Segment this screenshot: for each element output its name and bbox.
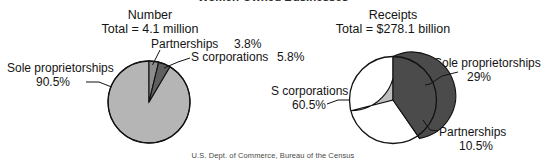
left-leader-s-corporations [164,58,190,68]
right-pie-chart [350,52,456,143]
right-leader-s-corporations [327,100,350,104]
source-note: U.S. Dept. of Commerce, Bureau of the Ce… [0,152,546,160]
left-pie-chart [108,61,190,143]
pies-svg [0,0,546,164]
right-slice-s-corporations [393,52,456,138]
left-leader-sole-proprietorships [86,82,112,87]
right-slice-sole-proprietorships [351,57,394,111]
figure-container: Women-Owned Businesses Number Total = 4.… [0,0,546,164]
